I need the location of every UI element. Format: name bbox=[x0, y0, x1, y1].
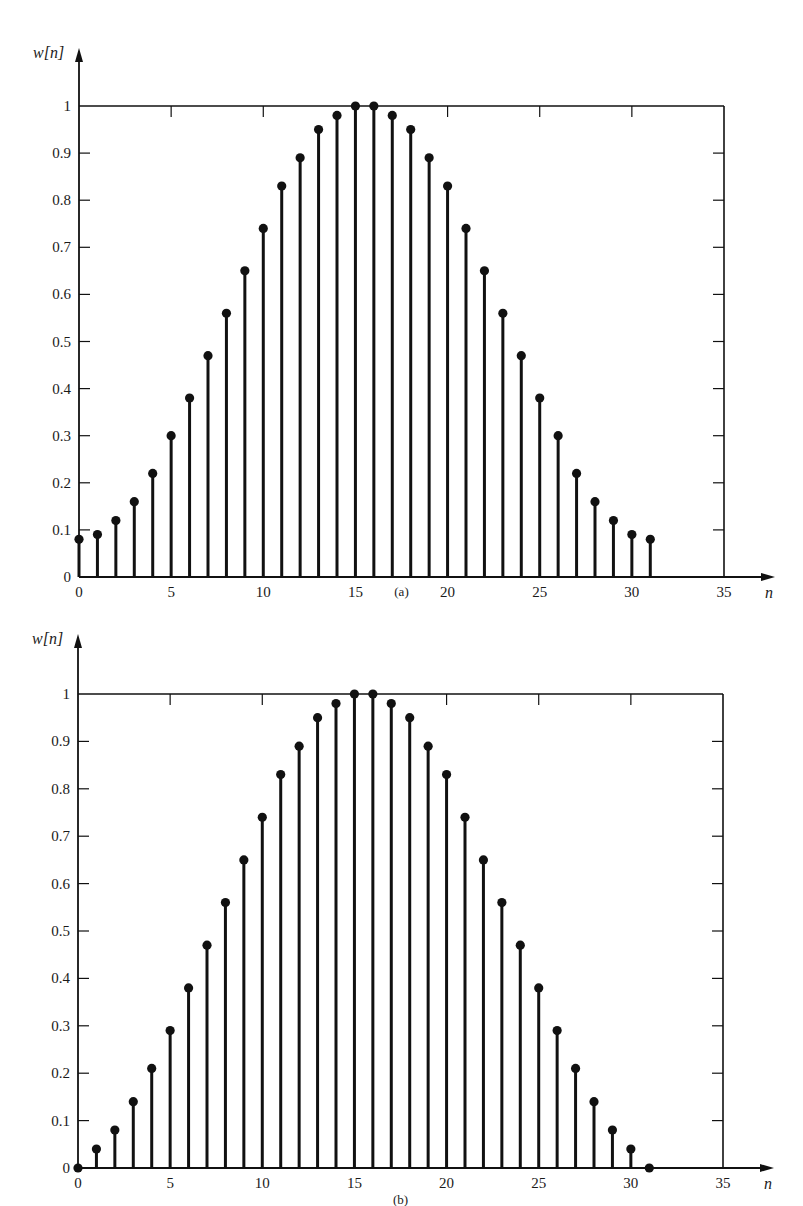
stem-marker bbox=[92, 1144, 101, 1153]
stem-marker bbox=[534, 983, 543, 992]
stem-marker bbox=[571, 1064, 580, 1073]
y-axis-arrow-icon bbox=[75, 48, 83, 62]
stem-marker bbox=[276, 770, 285, 779]
stem-marker bbox=[461, 224, 470, 233]
stem-marker bbox=[387, 699, 396, 708]
y-tick-label: 0.7 bbox=[51, 828, 70, 844]
stem-marker bbox=[239, 855, 248, 864]
stem-marker bbox=[388, 111, 397, 120]
stem-marker bbox=[351, 101, 360, 110]
stem-marker bbox=[296, 153, 305, 162]
y-tick-label: 0 bbox=[64, 569, 72, 585]
stem-marker bbox=[93, 530, 102, 539]
y-tick-label: 0.1 bbox=[51, 1113, 70, 1129]
stem-marker bbox=[203, 351, 212, 360]
stem-marker bbox=[221, 898, 230, 907]
x-tick-label: 35 bbox=[717, 584, 732, 600]
stem-marker bbox=[111, 516, 120, 525]
stem-marker bbox=[110, 1125, 119, 1134]
stem-marker bbox=[479, 855, 488, 864]
stem-marker bbox=[369, 101, 378, 110]
panel-caption: (a) bbox=[394, 584, 408, 599]
y-tick-label: 1 bbox=[64, 98, 72, 114]
y-tick-label: 0.9 bbox=[52, 145, 71, 161]
stem-marker bbox=[646, 535, 655, 544]
stem-marker bbox=[368, 689, 377, 698]
y-tick-label: 0.4 bbox=[52, 381, 71, 397]
y-tick-label: 0.8 bbox=[52, 192, 71, 208]
x-tick-label: 10 bbox=[256, 584, 271, 600]
stem-marker bbox=[277, 181, 286, 190]
stem-marker bbox=[185, 393, 194, 402]
x-tick-label: 5 bbox=[167, 584, 175, 600]
stem-marker bbox=[350, 689, 359, 698]
x-axis-label: n bbox=[764, 1175, 772, 1192]
stem-marker bbox=[535, 393, 544, 402]
stem-marker bbox=[443, 181, 452, 190]
stem-marker bbox=[589, 1097, 598, 1106]
stem-marker bbox=[627, 530, 636, 539]
y-tick-label: 0.8 bbox=[51, 781, 70, 797]
stem-marker bbox=[129, 1097, 138, 1106]
y-tick-label: 1 bbox=[63, 686, 71, 702]
y-tick-label: 0.2 bbox=[51, 1065, 70, 1081]
stem-marker bbox=[148, 469, 157, 478]
stem-series bbox=[74, 101, 654, 577]
chart-panel-b: 00.10.20.30.40.50.60.70.80.9105101520253… bbox=[0, 600, 803, 1206]
y-tick-label: 0.7 bbox=[52, 239, 71, 255]
x-axis-arrow-icon bbox=[761, 573, 775, 581]
y-tick-label: 0.6 bbox=[52, 286, 71, 302]
x-tick-label: 35 bbox=[716, 1175, 731, 1191]
y-tick-label: 0.1 bbox=[52, 522, 71, 538]
x-axis-label: n bbox=[765, 584, 773, 601]
stem-marker bbox=[425, 153, 434, 162]
x-tick-label: 15 bbox=[347, 1175, 362, 1191]
x-tick-label: 0 bbox=[75, 584, 83, 600]
stem-marker bbox=[130, 497, 139, 506]
stem-marker bbox=[166, 1026, 175, 1035]
x-axis-arrow-icon bbox=[760, 1164, 774, 1172]
stem-plot-a: 00.10.20.30.40.50.60.70.80.9105101520253… bbox=[0, 0, 803, 600]
stem-marker bbox=[332, 111, 341, 120]
stem-marker bbox=[480, 266, 489, 275]
x-tick-label: 5 bbox=[166, 1175, 174, 1191]
stem-marker bbox=[442, 770, 451, 779]
x-tick-label: 25 bbox=[531, 1175, 546, 1191]
stem-marker bbox=[202, 941, 211, 950]
panel-caption: (b) bbox=[393, 1192, 408, 1206]
stem-marker bbox=[460, 813, 469, 822]
stem-marker bbox=[295, 742, 304, 751]
stem-marker bbox=[240, 266, 249, 275]
y-tick-label: 0.3 bbox=[52, 428, 71, 444]
y-axis-arrow-icon bbox=[74, 634, 82, 648]
chart-panel-a: 00.10.20.30.40.50.60.70.80.9105101520253… bbox=[0, 0, 803, 600]
stem-marker bbox=[147, 1064, 156, 1073]
y-axis-label: w[n] bbox=[32, 630, 63, 647]
stem-marker bbox=[184, 983, 193, 992]
stem-marker bbox=[406, 125, 415, 134]
x-tick-label: 30 bbox=[624, 584, 639, 600]
stem-marker bbox=[626, 1144, 635, 1153]
stem-marker bbox=[258, 813, 267, 822]
stem-marker bbox=[167, 431, 176, 440]
y-tick-label: 0 bbox=[63, 1160, 71, 1176]
stem-series bbox=[73, 689, 653, 1172]
stem-marker bbox=[424, 742, 433, 751]
stem-marker bbox=[554, 431, 563, 440]
stem-plot-b: 00.10.20.30.40.50.60.70.80.9105101520253… bbox=[0, 600, 803, 1206]
stem-marker bbox=[314, 125, 323, 134]
stem-marker bbox=[517, 351, 526, 360]
x-tick-label: 25 bbox=[532, 584, 547, 600]
x-tick-label: 30 bbox=[623, 1175, 638, 1191]
stem-marker bbox=[497, 898, 506, 907]
x-tick-label: 10 bbox=[255, 1175, 270, 1191]
x-tick-label: 20 bbox=[440, 584, 455, 600]
y-tick-label: 0.5 bbox=[51, 923, 70, 939]
x-tick-label: 15 bbox=[348, 584, 363, 600]
x-tick-label: 0 bbox=[74, 1175, 82, 1191]
stem-marker bbox=[590, 497, 599, 506]
stem-marker bbox=[516, 941, 525, 950]
stem-marker bbox=[572, 469, 581, 478]
y-axis-label: w[n] bbox=[33, 44, 64, 61]
stem-marker bbox=[609, 516, 618, 525]
